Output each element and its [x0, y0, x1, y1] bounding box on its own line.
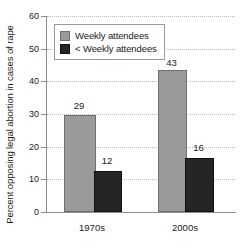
- y-tick-label-30: 30: [20, 109, 39, 119]
- y-tick-label-0: 0: [20, 207, 39, 217]
- y-axis-line: [46, 16, 47, 213]
- legend: Weekly attendees < Weekly attendees: [54, 24, 165, 60]
- y-tick-mark-50: [41, 49, 46, 50]
- bar-value-2000s-less-weekly: 16: [193, 142, 204, 153]
- bar-1970s-weekly-attendees[interactable]: [64, 115, 96, 212]
- bar-chart: Percent opposing legal abortion in cases…: [0, 0, 242, 249]
- y-tick-label-50: 50: [20, 44, 39, 54]
- legend-label-weekly: Weekly attendees: [75, 30, 149, 41]
- y-tick-mark-10: [41, 179, 46, 180]
- legend-label-less-weekly: < Weekly attendees: [75, 43, 157, 54]
- bar-value-1970s-less-weekly: 12: [102, 155, 113, 166]
- bar-value-1970s-weekly: 29: [74, 100, 85, 111]
- y-tick-label-40: 40: [20, 76, 39, 86]
- legend-item-weekly-attendees[interactable]: Weekly attendees: [60, 29, 157, 42]
- y-tick-label-10: 10: [20, 174, 39, 184]
- gridline-40: [47, 81, 235, 82]
- y-tick-label-20: 20: [20, 142, 39, 152]
- x-axis-line: [46, 212, 236, 213]
- bar-value-2000s-weekly: 43: [166, 57, 177, 68]
- bar-1970s-less-weekly-attendees[interactable]: [94, 171, 122, 212]
- y-axis-title: Percent opposing legal abortion in cases…: [0, 0, 18, 249]
- y-tick-mark-30: [41, 114, 46, 115]
- legend-swatch-icon-weekly: [60, 31, 70, 41]
- x-axis-label-2000s: 2000s: [172, 222, 198, 233]
- y-tick-mark-60: [41, 16, 46, 17]
- x-axis-label-1970s: 1970s: [79, 222, 105, 233]
- legend-item-less-weekly-attendees[interactable]: < Weekly attendees: [60, 42, 157, 55]
- legend-swatch-icon-less-weekly: [60, 44, 70, 54]
- y-tick-label-60: 60: [20, 11, 39, 21]
- bar-2000s-less-weekly-attendees[interactable]: [185, 158, 214, 212]
- gridline-60: [47, 16, 235, 17]
- y-tick-mark-20: [41, 147, 46, 148]
- y-tick-mark-40: [41, 81, 46, 82]
- bar-2000s-weekly-attendees[interactable]: [158, 70, 187, 212]
- y-tick-mark-0: [41, 212, 46, 213]
